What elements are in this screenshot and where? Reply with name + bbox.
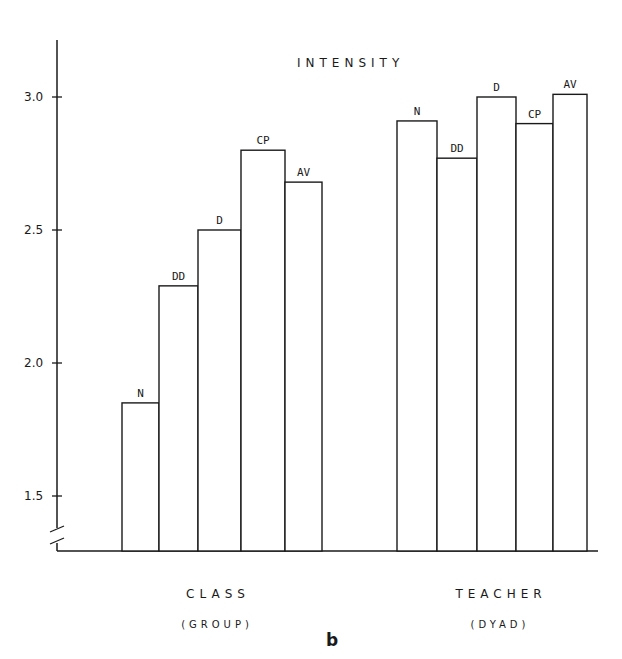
group-label: TEACHER: [454, 587, 546, 601]
bar-dd: [159, 286, 198, 551]
intensity-bar-chart: INTENSITY 1.52.02.53.0 NDDDCPAVNDDDCPAV …: [0, 0, 622, 659]
group-label: CLASS: [186, 587, 250, 601]
chart-title: INTENSITY: [297, 56, 404, 70]
bar-group-teacher: NDDDCPAV: [397, 78, 587, 551]
bar-label: N: [137, 387, 144, 400]
y-tick-label: 2.0: [24, 356, 43, 370]
bar-d: [198, 230, 241, 551]
bar-n: [122, 403, 159, 551]
bar-cp: [241, 150, 285, 551]
group-sublabel: (GROUP): [181, 619, 253, 630]
bar-av: [553, 94, 587, 551]
y-tick-label: 2.5: [24, 223, 43, 237]
bar-label: DD: [450, 142, 463, 155]
panel-label: b: [326, 630, 338, 650]
bar-label: AV: [297, 166, 311, 179]
bar-label: D: [493, 81, 500, 94]
bar-label: CP: [528, 108, 542, 121]
bar-d: [477, 97, 516, 551]
bar-label: D: [216, 214, 223, 227]
group-sublabel: (DYAD): [471, 619, 530, 630]
group-labels: CLASS(GROUP)TEACHER(DYAD): [181, 587, 546, 630]
bar-label: DD: [172, 270, 185, 283]
bar-label: N: [414, 105, 421, 118]
bar-label: CP: [256, 134, 270, 147]
y-tick-label: 3.0: [24, 90, 43, 104]
bar-cp: [516, 124, 553, 551]
bar-av: [285, 182, 322, 551]
bar-group-class: NDDDCPAV: [122, 134, 322, 551]
bar-label: AV: [563, 78, 577, 91]
y-tick-label: 1.5: [24, 489, 43, 503]
bar-dd: [437, 158, 477, 551]
bars: NDDDCPAVNDDDCPAV: [122, 78, 587, 551]
bar-n: [397, 121, 437, 551]
